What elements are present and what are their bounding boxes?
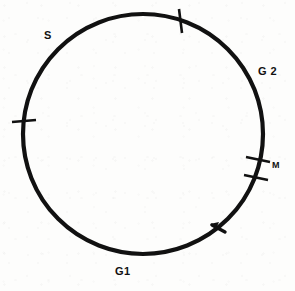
- phase-label-s: S: [44, 30, 52, 41]
- tick-left-icon: [12, 120, 36, 122]
- phase-label-m: M: [272, 161, 280, 170]
- cell-cycle-figure: S G 2 M G1: [0, 0, 295, 291]
- cell-cycle-svg: [0, 0, 295, 291]
- phase-label-g1: G1: [115, 266, 131, 277]
- cell-cycle-ring: [23, 14, 263, 254]
- phase-label-g2: G 2: [258, 66, 277, 77]
- tick-top-icon: [179, 9, 182, 33]
